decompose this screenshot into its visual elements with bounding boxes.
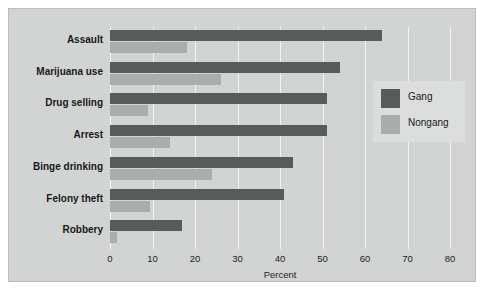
- category-label: Marijuana use: [36, 62, 103, 82]
- bar-gang: [110, 220, 182, 231]
- x-tick-label: 50: [317, 253, 328, 264]
- category-label: Drug selling: [45, 93, 103, 113]
- bar-nongang: [110, 74, 221, 85]
- bar-gang: [110, 189, 284, 200]
- legend-label-gang: Gang: [408, 91, 432, 102]
- category-label: Robbery: [62, 220, 103, 240]
- bar-nongang: [110, 201, 150, 212]
- x-axis-title: Percent: [264, 269, 297, 280]
- bar-gang: [110, 62, 340, 73]
- bar-nongang: [110, 42, 187, 53]
- bar-gang: [110, 93, 327, 104]
- legend-swatch-nongang: [381, 115, 400, 134]
- bar-nongang: [110, 232, 117, 243]
- legend-label-nongang: Nongang: [408, 117, 449, 128]
- plot-panel: Percent 01020304050607080AssaultMarijuan…: [8, 8, 476, 282]
- bar-chart-figure: Percent 01020304050607080AssaultMarijuan…: [0, 0, 484, 290]
- x-tick-label: 40: [275, 253, 286, 264]
- x-tick-label: 30: [232, 253, 243, 264]
- bar-nongang: [110, 137, 170, 148]
- x-tick-label: 0: [107, 253, 112, 264]
- x-tick-label: 60: [360, 253, 371, 264]
- x-tick-label: 20: [190, 253, 201, 264]
- category-row: Robbery: [110, 217, 450, 249]
- x-tick-label: 10: [147, 253, 158, 264]
- bar-nongang: [110, 169, 212, 180]
- x-tick-label: 70: [402, 253, 413, 264]
- category-row: Felony theft: [110, 186, 450, 218]
- category-row: Binge drinking: [110, 154, 450, 186]
- category-label: Felony theft: [46, 189, 103, 209]
- bar-nongang: [110, 105, 148, 116]
- bar-gang: [110, 30, 382, 41]
- category-label: Arrest: [74, 125, 103, 145]
- legend-swatch-gang: [381, 89, 400, 108]
- category-row: Assault: [110, 27, 450, 59]
- category-label: Assault: [67, 30, 103, 50]
- x-tick-label: 80: [445, 253, 456, 264]
- category-label: Binge drinking: [33, 157, 103, 177]
- chart-legend: Gang Nongang: [373, 81, 465, 142]
- bar-gang: [110, 125, 327, 136]
- bar-gang: [110, 157, 293, 168]
